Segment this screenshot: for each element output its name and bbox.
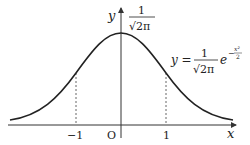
peak-numerator: 1 <box>138 4 145 17</box>
tick-label-pos-one: 1 <box>163 129 170 142</box>
peak-denominator: √2π <box>129 20 150 33</box>
equation-base: e <box>220 53 227 67</box>
x-axis-label: x <box>227 126 235 141</box>
peak-value-label: 1 √2π <box>129 4 155 33</box>
equation-exp-den: 2 <box>236 53 240 60</box>
equation-exp-num: x² <box>234 45 240 52</box>
equation-numerator: 1 <box>201 47 208 60</box>
equation-lhs: y = <box>170 53 192 67</box>
y-axis-label: y <box>107 8 116 23</box>
normal-distribution-diagram: y x O −1 1 1 √2π y = 1 √2π e − x² 2 <box>0 0 250 145</box>
tick-label-neg-one: −1 <box>67 129 83 142</box>
equation-label: y = 1 √2π e − x² 2 <box>170 45 242 76</box>
origin-label: O <box>107 129 116 142</box>
equation-denominator: √2π <box>193 63 214 76</box>
